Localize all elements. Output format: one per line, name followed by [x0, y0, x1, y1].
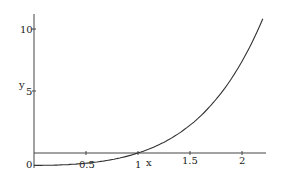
x-tick-label-1.5: 1.5 — [182, 155, 198, 166]
y-tick-label-5: 5 — [26, 86, 32, 97]
x-tick-label-0.5: 0.5 — [79, 159, 95, 170]
x-tick-label-2: 2 — [239, 155, 245, 166]
chart: 0 0.5 1 1.5 2 5 10 x y — [0, 0, 284, 180]
series-line — [34, 19, 263, 166]
x-tick-label-0: 0 — [26, 159, 32, 170]
y-axis-label: y — [18, 79, 25, 90]
x-tick-label-1: 1 — [135, 159, 141, 170]
x-axis-label: x — [146, 157, 152, 168]
y-tick-label-10: 10 — [20, 24, 33, 35]
